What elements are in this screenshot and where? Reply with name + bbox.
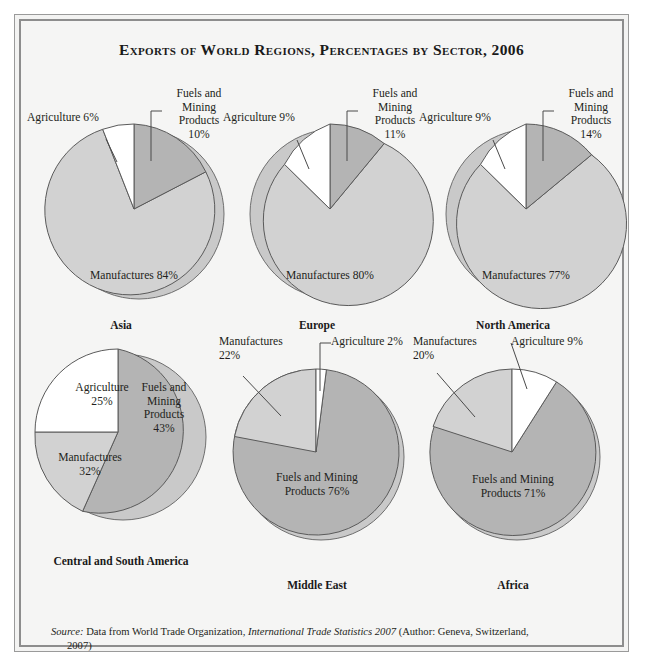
- africa-region-label: Africa: [413, 579, 613, 591]
- source-text-1: Data from World Trade Organization,: [84, 626, 248, 637]
- central-south-america-region-label: Central and South America: [21, 555, 221, 567]
- africa-manufactures-label: Manufactures 20%: [413, 335, 523, 362]
- source-publication-title: International Trade Statistics 2007: [248, 626, 396, 637]
- asia-agriculture-label: Agriculture 6%: [27, 111, 147, 125]
- figure-frame: Exports of World Regions, Percentages by…: [14, 14, 629, 652]
- middle-east-fuels-label: Fuels and Mining Products 76%: [241, 471, 393, 498]
- chart-middle-east: Manufactures 22% Agriculture 2% Fuels an…: [217, 321, 417, 599]
- pie-central-south-america: [21, 339, 221, 539]
- source-text-3: 2007): [51, 639, 611, 653]
- figure-inner-frame: Exports of World Regions, Percentages by…: [19, 19, 624, 647]
- chart-north-america: Manufactures 77% Agriculture 9% Fuels an…: [413, 61, 613, 331]
- source-prefix: Source:: [51, 626, 84, 637]
- north-america-agriculture-label: Agriculture 9%: [419, 111, 539, 125]
- asia-region-label: Asia: [21, 319, 221, 331]
- europe-manufactures-label: Manufactures 80%: [255, 269, 405, 283]
- source-text-2: (Author: Geneva, Switzerland,: [396, 626, 529, 637]
- africa-fuels-label: Fuels and Mining Products 71%: [437, 473, 589, 500]
- source-note: Source: Data from World Trade Organizati…: [51, 625, 611, 653]
- europe-agriculture-label: Agriculture 9%: [223, 111, 343, 125]
- chart-europe: Manufactures 80% Agriculture 9% Fuels an…: [217, 61, 417, 331]
- figure-title: Exports of World Regions, Percentages by…: [21, 41, 622, 59]
- africa-agriculture-label: Agriculture 9%: [511, 335, 621, 349]
- chart-asia: Manufactures 84% Agriculture 6% Fuels an…: [21, 61, 221, 331]
- middle-east-region-label: Middle East: [217, 579, 417, 591]
- asia-manufactures-label: Manufactures 84%: [59, 269, 209, 283]
- chart-central-south-america: Agriculture 25% Fuels and Mining Product…: [21, 339, 221, 599]
- north-america-fuels-label: Fuels and Mining Products 14%: [555, 87, 627, 141]
- chart-africa: Manufactures 20% Agriculture 9% Fuels an…: [413, 321, 613, 599]
- central-south-america-manufactures-label: Manufactures 32%: [35, 451, 145, 478]
- central-south-america-fuels-label: Fuels and Mining Products 43%: [125, 381, 203, 435]
- north-america-manufactures-label: Manufactures 77%: [451, 269, 601, 283]
- middle-east-manufactures-label: Manufactures 22%: [219, 335, 329, 362]
